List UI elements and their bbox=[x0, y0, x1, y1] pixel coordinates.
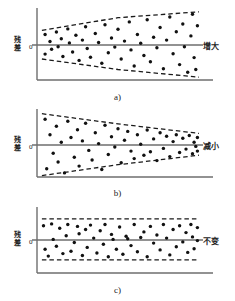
panel-c-ylabel: 残差 bbox=[11, 232, 23, 247]
panel-c-zero-label: 0 bbox=[29, 239, 33, 246]
panel-b-plot bbox=[0, 103, 235, 189]
residual-plots-figure: 残差 0 增大 a) 残差 0 减小 b) 残差 0 不变 c) bbox=[0, 0, 235, 301]
panel-a-side-label: 增大 bbox=[203, 42, 219, 51]
panel-a: 残差 0 增大 a) bbox=[0, 0, 235, 105]
panel-c-caption: c) bbox=[0, 285, 235, 295]
panel-a-plot bbox=[0, 0, 235, 92]
panel-a-scatter bbox=[0, 0, 235, 92]
panel-b: 残差 0 减小 b) bbox=[0, 103, 235, 203]
panel-b-ylabel: 残差 bbox=[11, 137, 23, 152]
panel-c-scatter bbox=[0, 201, 235, 287]
panel-a-caption: a) bbox=[0, 92, 235, 102]
panel-c: 残差 0 不变 c) bbox=[0, 201, 235, 301]
panel-c-plot bbox=[0, 201, 235, 287]
panel-b-caption: b) bbox=[0, 188, 235, 198]
panel-b-zero-label: 0 bbox=[29, 144, 33, 151]
panel-a-zero-label: 0 bbox=[29, 44, 33, 51]
panel-b-side-label: 减小 bbox=[203, 142, 219, 151]
panel-a-ylabel: 残差 bbox=[11, 37, 23, 52]
panel-c-side-label: 不变 bbox=[203, 237, 219, 246]
panel-b-scatter bbox=[0, 103, 235, 189]
